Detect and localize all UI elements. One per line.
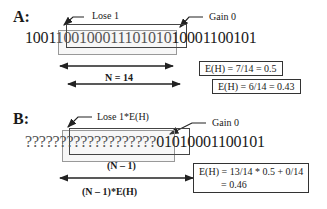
sequence-a-window-tail: 10 [156,29,172,46]
sequence-a: 100110010001110101010001100101 [25,29,257,47]
entropy-box-b: E(H) = 13/14 * 0.5 + 0/14 = 0.46 [193,163,309,193]
sequence-b: ???????????????????01010001100101 [25,133,265,151]
entropy-b-line1: E(H) = 13/14 * 0.5 + 0/14 [199,165,303,178]
sequence-b-suffix: 01010001100101 [156,133,265,150]
lose-label-a: Lose 1 [92,10,119,21]
sequence-a-suffix: 10001100101 [171,29,256,46]
sequence-b-prefix: ????? [25,133,60,150]
entropy-b-line2: = 0.46 [199,178,303,191]
lose-label-b: Lose 1*E(H) [97,111,149,122]
n-minus-label: (N – 1) [107,160,136,171]
entropy-box-1: E(H) = 7/14 = 0.5 [199,61,283,76]
n-minus-eh-label: (N – 1)*E(H) [82,186,137,197]
gain-label-b: Gain 0 [212,117,239,128]
sequence-a-window: 1001000111010 [56,29,156,46]
entropy-box-2: E(H) = 6/14 = 0.43 [212,79,301,94]
panel-a-label: A: [13,8,30,26]
sequence-a-prefix: 1001 [25,29,56,46]
panel-b-label: B: [13,110,29,128]
gain-label-a: Gain 0 [209,11,236,22]
n-label: N = 14 [105,72,133,83]
sequence-b-window: ?????????????? [60,133,157,150]
